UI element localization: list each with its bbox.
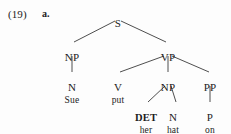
tree-terminal-hat-w4: hat [167, 125, 179, 134]
tree-node-np-np1: NP [65, 52, 79, 63]
tree-node-p-p: P [207, 112, 213, 123]
tree-terminal-sue-w1: Sue [65, 95, 80, 105]
tree-node-det-det: DET [135, 112, 157, 123]
tree-node-pp-pp: PP [204, 82, 217, 93]
tree-node-np-np2: NP [161, 82, 175, 93]
tree-edge-s-to-vp [121, 21, 166, 42]
tree-node-vp-vp: VP [161, 52, 175, 63]
tree-edge-s-to-np1 [74, 21, 115, 42]
tree-node-s-s: S [115, 18, 121, 29]
tree-terminal-on-w5: on [205, 125, 215, 134]
tree-node-n-n1: N [68, 82, 76, 93]
tree-edge-vp-to-v [120, 56, 164, 72]
tree-node-n-n2: N [169, 112, 177, 123]
tree-terminal-put-w2: put [112, 95, 125, 105]
tree-edge-vp-to-pp [172, 56, 209, 72]
tree-node-v-v: V [114, 82, 122, 93]
syntax-tree-figure: (19) a. SNPVPNVNPPPDETNPSueputherhaton [0, 0, 231, 134]
tree-terminal-her-w3: her [140, 125, 153, 134]
